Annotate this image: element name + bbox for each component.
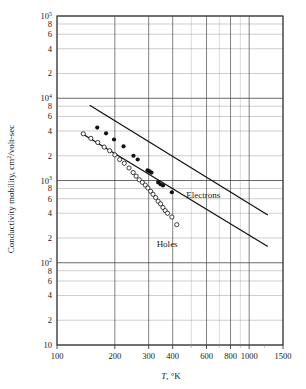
data-point-hole [102,145,106,149]
y-tick-label: 10 [44,340,53,350]
series-label-holes: Holes [157,239,178,249]
y-tick-label: 6 [48,29,52,39]
x-tick-label: 400 [166,351,179,361]
data-point-hole [122,161,126,165]
x-tick-label: 1500 [275,351,292,361]
y-tick-label: 2 [48,315,52,325]
data-point-hole [81,132,85,136]
y-tick-label: 6 [48,194,52,204]
mobility-log-log-chart: 1024681022468103246810424681051002003004… [0,0,306,389]
data-point-hole [170,215,174,219]
x-axis-title: T, °K [161,371,181,381]
data-point-hole [165,211,169,215]
data-point-electron [170,190,174,194]
data-point-electron [95,125,99,129]
data-point-electron [149,170,153,174]
y-axis-title: Conductivity mobility, cm2/volt-sec [6,125,16,254]
x-tick-label: 800 [224,351,237,361]
data-point-hole [131,170,135,174]
data-point-hole [96,140,100,144]
x-tick-label: 600 [200,351,213,361]
x-tick-label: 100 [51,351,64,361]
data-point-hole [175,223,179,227]
series-label-electrons: Electrons [186,190,220,200]
y-tick-label: 2 [48,68,52,78]
y-tick-label: 6 [48,111,52,121]
data-point-hole [134,174,138,178]
data-point-hole [108,149,112,153]
data-point-electron [131,154,135,158]
data-point-electron [121,144,125,148]
x-tick-label: 300 [142,351,155,361]
data-point-hole [127,166,131,170]
y-tick-label: 2 [48,151,52,161]
data-point-hole [113,153,117,157]
x-tick-label: 200 [108,351,121,361]
data-point-electron [112,137,116,141]
data-point-electron [136,157,140,161]
y-tick-label: 2 [48,233,52,243]
x-tick-label: 1000 [241,351,258,361]
figure-container: 1024681022468103246810424681051002003004… [0,0,306,389]
data-point-hole [89,136,93,140]
y-tick-label: 6 [48,276,52,286]
data-point-electron [104,131,108,135]
data-point-hole [118,157,122,161]
data-point-electron [161,183,165,187]
